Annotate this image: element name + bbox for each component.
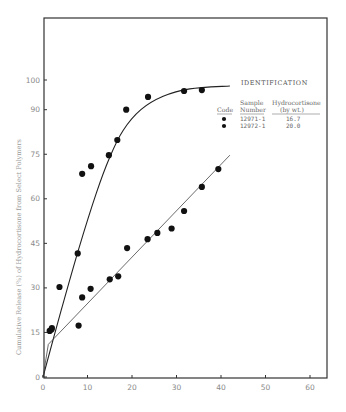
x-tick-label: 0 bbox=[41, 383, 46, 392]
data-point-series-2 bbox=[144, 236, 150, 242]
plot-border bbox=[44, 18, 327, 378]
data-point-series-2 bbox=[154, 230, 160, 236]
y-tick-label: 45 bbox=[30, 239, 40, 248]
y-tick-label: 15 bbox=[30, 328, 40, 337]
legend-marker-icon bbox=[222, 124, 226, 128]
legend-header-code: Code bbox=[217, 106, 233, 113]
legend-header-hydrocortisone-2: (by wt.) bbox=[280, 106, 304, 114]
data-point-series-1 bbox=[75, 250, 81, 256]
data-point-series-1 bbox=[56, 284, 62, 290]
data-point-series-2 bbox=[181, 208, 187, 214]
data-point-series-1 bbox=[123, 107, 129, 113]
x-tick-label: 10 bbox=[83, 383, 93, 392]
x-tick-label: 30 bbox=[172, 383, 182, 392]
legend-marker-icon bbox=[222, 117, 226, 121]
data-point-series-2 bbox=[199, 184, 205, 190]
x-tick-label: 20 bbox=[127, 383, 137, 392]
data-point-series-1 bbox=[199, 87, 205, 93]
legend: IDENTIFICATION Code Sample Number Hydroc… bbox=[217, 79, 321, 129]
legend-hydrocortisone-value: 16.7 bbox=[286, 115, 301, 122]
data-point-series-1 bbox=[106, 152, 112, 158]
data-point-series-1 bbox=[114, 137, 120, 143]
data-point-series-1 bbox=[145, 94, 151, 100]
y-tick-label: 90 bbox=[30, 105, 40, 114]
data-point-series-2 bbox=[79, 294, 85, 300]
x-tick-label: 60 bbox=[305, 383, 315, 392]
x-tick-label: 40 bbox=[216, 383, 226, 392]
legend-title: IDENTIFICATION bbox=[241, 79, 308, 87]
data-point-series-2 bbox=[169, 225, 175, 231]
y-tick-label: 75 bbox=[30, 150, 40, 159]
legend-hydrocortisone-value: 20.0 bbox=[286, 122, 301, 129]
x-tick-label: 50 bbox=[261, 383, 271, 392]
legend-header-sample-2: Number bbox=[240, 106, 266, 113]
data-point-series-2 bbox=[124, 245, 130, 251]
data-point-series-2 bbox=[88, 286, 94, 292]
data-point-series-2 bbox=[76, 323, 82, 329]
y-tick-label: 60 bbox=[30, 194, 40, 203]
fit-curves bbox=[43, 86, 230, 377]
data-points bbox=[47, 87, 222, 334]
data-point-series-2 bbox=[107, 276, 113, 282]
legend-sample-number: 12972-1 bbox=[240, 122, 266, 129]
data-point-series-2 bbox=[48, 326, 54, 332]
y-tick-label: 100 bbox=[26, 76, 41, 85]
release-chart: 0153045607590100 0102030405060 Cumulativ… bbox=[0, 0, 346, 412]
fit-curve-1 bbox=[43, 86, 230, 377]
legend-sample-number: 12971-1 bbox=[240, 115, 266, 122]
y-tick-label: 0 bbox=[35, 373, 40, 382]
y-tick-label: 30 bbox=[30, 283, 40, 292]
data-point-series-1 bbox=[79, 171, 85, 177]
data-point-series-2 bbox=[215, 166, 221, 172]
data-point-series-2 bbox=[115, 273, 121, 279]
legend-rows: 12971-116.712972-120.0 bbox=[222, 115, 301, 129]
plot-frame bbox=[44, 18, 327, 378]
y-axis-label: Cumulative Release (%) of Hydrocortisone… bbox=[15, 138, 23, 355]
data-point-series-1 bbox=[88, 163, 94, 169]
data-point-series-1 bbox=[181, 88, 187, 94]
